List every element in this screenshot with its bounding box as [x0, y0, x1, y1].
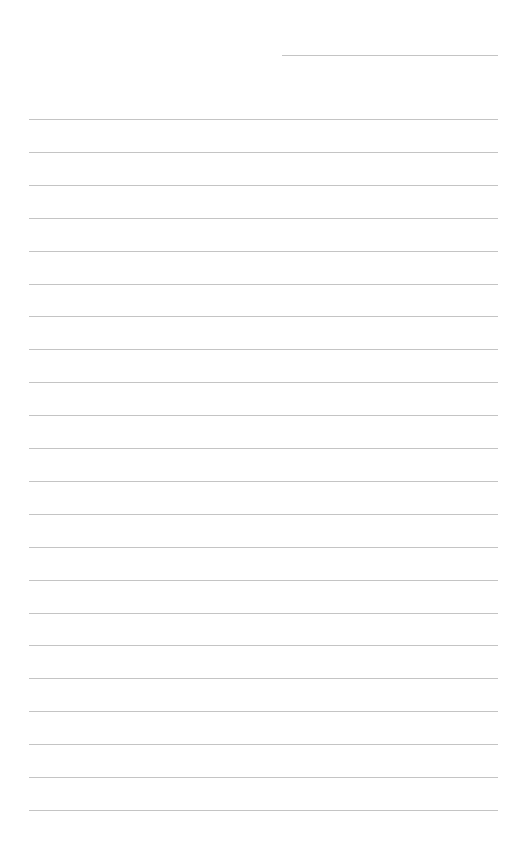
ruled-line	[29, 218, 498, 219]
ruled-line	[29, 119, 498, 120]
ruled-line	[29, 711, 498, 712]
ruled-line	[29, 415, 498, 416]
header-rule-line	[282, 55, 498, 56]
ruled-line	[29, 152, 498, 153]
ruled-line	[29, 613, 498, 614]
ruled-line	[29, 284, 498, 285]
ruled-line	[29, 810, 498, 811]
ruled-line	[29, 185, 498, 186]
ruled-line	[29, 481, 498, 482]
ruled-line	[29, 514, 498, 515]
ruled-line	[29, 547, 498, 548]
ruled-line	[29, 580, 498, 581]
ruled-line	[29, 349, 498, 350]
ruled-line	[29, 777, 498, 778]
ruled-line	[29, 678, 498, 679]
ruled-line	[29, 316, 498, 317]
ruled-line	[29, 448, 498, 449]
ruled-line	[29, 645, 498, 646]
ruled-line	[29, 744, 498, 745]
ruled-line	[29, 251, 498, 252]
ruled-line	[29, 382, 498, 383]
